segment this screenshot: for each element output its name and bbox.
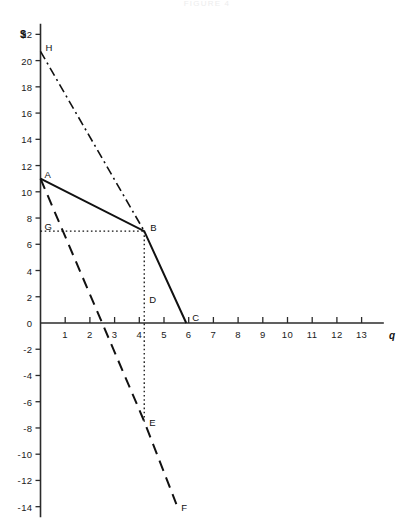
y-tick-label: 12	[21, 160, 32, 171]
plot-canvas	[0, 0, 414, 520]
x-tick-label: 6	[186, 329, 192, 340]
y-tick-label: 4	[27, 265, 33, 276]
x-tick-label: 4	[136, 329, 142, 340]
y-tick-label: -14	[18, 501, 33, 512]
x-tick-label: 11	[307, 329, 318, 340]
y-tick-label: -8	[23, 422, 32, 433]
ticks-group	[36, 34, 362, 506]
point-label-d: D	[149, 294, 156, 305]
point-label-h: H	[46, 42, 53, 53]
x-tick-label: 7	[211, 329, 217, 340]
point-label-b: B	[150, 222, 156, 233]
y-axis-title: $	[20, 28, 26, 40]
y-tick-label: -12	[18, 475, 33, 486]
series-solid-ABC	[41, 179, 187, 323]
x-tick-label: 3	[112, 329, 118, 340]
x-tick-label: 12	[331, 329, 342, 340]
x-axis-title: q	[389, 330, 395, 341]
x-tick-label: 13	[356, 329, 367, 340]
y-tick-label: 18	[21, 81, 32, 92]
y-tick-label: -10	[18, 449, 33, 460]
x-tick-label: 1	[62, 329, 68, 340]
y-tick-label: -4	[23, 370, 32, 381]
point-label-a: A	[45, 169, 51, 180]
y-tick-label: 14	[21, 134, 32, 145]
point-label-e: E	[149, 417, 155, 428]
y-tick-label: 8	[27, 213, 33, 224]
y-tick-label: -2	[23, 344, 32, 355]
y-tick-label: 2	[27, 291, 33, 302]
y-tick-label: -6	[23, 396, 32, 407]
x-tick-label: 10	[282, 329, 293, 340]
y-tick-label: 6	[27, 239, 33, 250]
y-tick-label: 20	[21, 55, 32, 66]
axes-group	[41, 24, 384, 517]
x-tick-label: 9	[260, 329, 266, 340]
point-label-f: F	[181, 502, 187, 513]
series-group	[41, 51, 187, 504]
x-tick-label: 8	[235, 329, 241, 340]
point-label-g: G	[45, 221, 52, 232]
y-tick-label: 0	[27, 318, 33, 329]
x-tick-label: 5	[161, 329, 167, 340]
figure-root: FIGURE 4 1234567891011121322201816141210…	[0, 0, 414, 520]
y-tick-label: 16	[21, 108, 32, 119]
x-tick-label: 2	[87, 329, 93, 340]
point-label-c: C	[192, 312, 199, 323]
y-tick-label: 10	[21, 186, 32, 197]
